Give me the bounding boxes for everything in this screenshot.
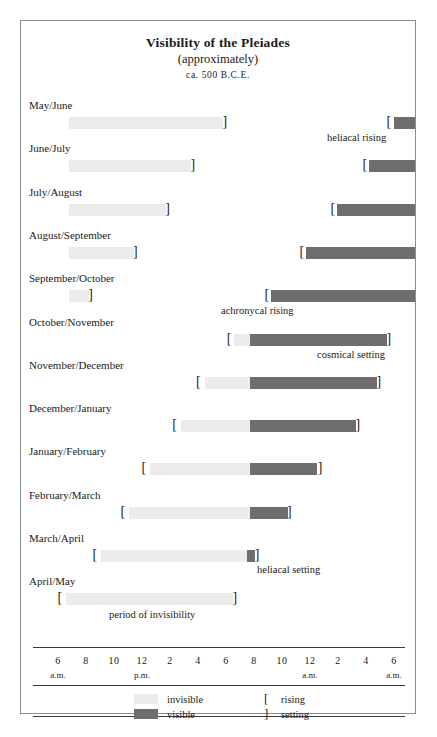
marker-setting: ] [165,203,170,215]
x-tick-label: 6 [223,655,229,666]
row-label: June/July [29,142,71,154]
annotation: heliacal rising [327,132,386,144]
bar-segment-visible [369,160,415,172]
x-tick-label: 6 [391,655,397,666]
row-label: August/September [29,229,111,241]
marker-rising: [ [196,376,201,388]
bar-segment-invisible [69,160,191,172]
x-tick-label: 10 [109,655,120,666]
x-tick-label: 8 [251,655,257,666]
legend-label-setting: setting [281,709,309,720]
axis-rule-0 [33,647,405,648]
row-label: April/May [29,575,75,587]
annotation: period of invisibility [109,609,195,621]
x-tick-label: 8 [83,655,89,666]
legend-glyph-setting: ] [264,708,268,719]
row-label: March/April [29,532,84,544]
marker-rising: [ [92,549,97,561]
marker-setting: ] [255,549,260,561]
marker-rising: [ [172,419,177,431]
chart-page: Visibility of the Pleiades (approximatel… [0,0,437,737]
chart-plot-area: May/June][June/July][July/August][August… [21,21,417,715]
legend-label-invisible: invisible [167,694,203,705]
legend-label-rising: rising [281,694,305,705]
bar-segment-invisible [129,507,249,519]
x-tick-label: 4 [195,655,201,666]
marker-setting: ] [223,116,228,128]
legend-label-visible: visible [167,709,195,720]
bar-segment-invisible [69,117,223,129]
annotation: achronycal rising [221,305,294,317]
axis-rule-1 [33,685,405,686]
annotation: heliacal setting [257,564,320,576]
x-tick-label: 2 [335,655,341,666]
marker-setting: ] [356,419,361,431]
marker-setting: ] [377,376,382,388]
bar-segment-visible [271,290,415,302]
marker-rising: [ [386,116,391,128]
bar-segment-invisible [205,377,250,389]
bar-segment-invisible [101,550,247,562]
marker-setting: ] [133,246,138,258]
x-tick-label: 6 [55,655,61,666]
bar-segment-visible [250,507,288,519]
x-tick-label: 4 [363,655,369,666]
bar-segment-visible [394,117,415,129]
bar-segment-visible [337,204,415,216]
marker-setting: ] [287,506,292,518]
bar-segment-visible [250,463,317,475]
legend-glyph-rising: [ [264,693,268,704]
marker-rising: [ [141,462,146,474]
row-label: December/January [29,402,111,414]
row-label: January/February [29,445,106,457]
x-period-label: p.m. [134,670,150,681]
x-period-label: a.m. [386,670,402,681]
marker-setting: ] [190,159,195,171]
x-tick-label: 12 [137,655,148,666]
marker-setting: ] [232,592,237,604]
row-label: February/March [29,489,100,501]
bar-segment-visible [250,377,377,389]
row-label: July/August [29,186,82,198]
marker-rising: [ [57,592,62,604]
bar-segment-invisible [181,420,250,432]
x-tick-label: 2 [167,655,173,666]
marker-setting: ] [386,333,391,345]
marker-setting: ] [318,462,323,474]
row-label: October/November [29,316,114,328]
legend-swatch-visible [134,709,158,719]
bar-segment-invisible [150,463,249,475]
x-period-label: a.m. [302,670,318,681]
bar-segment-invisible [69,290,89,302]
marker-rising: [ [330,203,335,215]
x-period-label: a.m. [50,670,66,681]
marker-rising: [ [300,246,305,258]
marker-setting: ] [88,289,93,301]
marker-rising: [ [363,159,368,171]
bar-segment-invisible [69,247,133,259]
marker-rising: [ [120,506,125,518]
bar-segment-invisible [69,204,166,216]
row-label: May/June [29,99,72,111]
chart-frame: Visibility of the Pleiades (approximatel… [20,20,416,714]
row-label: November/December [29,359,124,371]
legend-swatch-invisible [134,694,158,704]
x-tick-label: 12 [305,655,316,666]
bar-segment-invisible [66,593,233,605]
annotation: cosmical setting [317,349,385,361]
marker-rising: [ [227,333,232,345]
axis-rule-2 [33,716,405,717]
bar-segment-visible [250,334,387,346]
marker-rising: [ [265,289,270,301]
bar-segment-visible [250,420,356,432]
x-tick-label: 10 [277,655,288,666]
bar-segment-visible [306,247,415,259]
bar-segment-invisible [234,334,249,346]
row-label: September/October [29,272,115,284]
